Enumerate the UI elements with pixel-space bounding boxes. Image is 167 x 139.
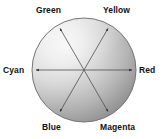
axis-label-blue: Blue [42, 123, 61, 132]
axis-label-green: Green [36, 6, 61, 15]
axis-label-cyan: Cyan [3, 66, 24, 75]
axis-label-yellow: Yellow [103, 6, 130, 15]
axis-label-red: Red [139, 66, 155, 75]
axis-label-magenta: Magenta [100, 123, 135, 132]
color-wheel-diagram: Green Yellow Cyan Red Blue Magenta [0, 0, 167, 139]
